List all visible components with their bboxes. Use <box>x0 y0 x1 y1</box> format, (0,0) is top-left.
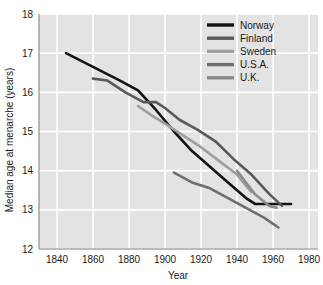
y-tick-label: 16 <box>22 87 34 98</box>
x-tick-label: 1880 <box>118 254 141 265</box>
legend-label-u-k: U.K. <box>240 72 259 83</box>
y-tick-label: 12 <box>22 244 34 255</box>
y-tick-label: 18 <box>22 9 34 20</box>
y-axis-title: Median age at menarche (years) <box>4 68 15 213</box>
x-axis-title: Year <box>168 270 189 281</box>
x-tick-label: 1960 <box>262 254 285 265</box>
legend-label-sweden: Sweden <box>240 46 276 57</box>
x-tick-label: 1900 <box>154 254 177 265</box>
x-tick-label: 1920 <box>190 254 213 265</box>
x-axis-tick-labels: 18401860188019001920194019601980 <box>46 254 321 265</box>
y-tick-label: 13 <box>22 204 34 215</box>
x-tick-label: 1980 <box>298 254 321 265</box>
legend-label-u-s-a: U.S.A. <box>240 59 269 70</box>
y-tick-label: 17 <box>22 48 34 59</box>
x-tick-label: 1840 <box>46 254 69 265</box>
x-tick-label: 1940 <box>226 254 249 265</box>
menarche-line-chart: 12131415161718 1840186018801900192019401… <box>0 0 323 285</box>
y-tick-label: 14 <box>22 165 34 176</box>
y-axis-tick-labels: 12131415161718 <box>22 9 34 255</box>
legend-label-finland: Finland <box>240 33 273 44</box>
y-tick-label: 15 <box>22 126 34 137</box>
legend-label-norway: Norway <box>240 20 274 31</box>
chart-container: 12131415161718 1840186018801900192019401… <box>0 0 323 285</box>
x-tick-label: 1860 <box>82 254 105 265</box>
